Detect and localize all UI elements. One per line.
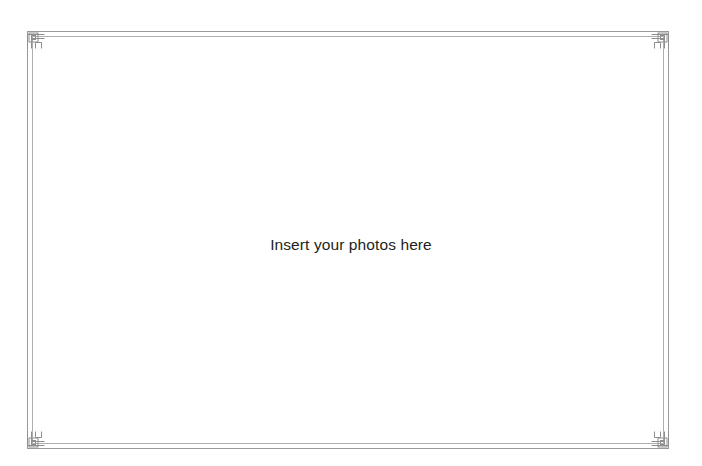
photo-placeholder-label: Insert your photos here xyxy=(270,236,432,254)
photo-album-page: Insert your photos here xyxy=(0,0,702,466)
photo-dropzone[interactable]: Insert your photos here xyxy=(31,35,671,451)
